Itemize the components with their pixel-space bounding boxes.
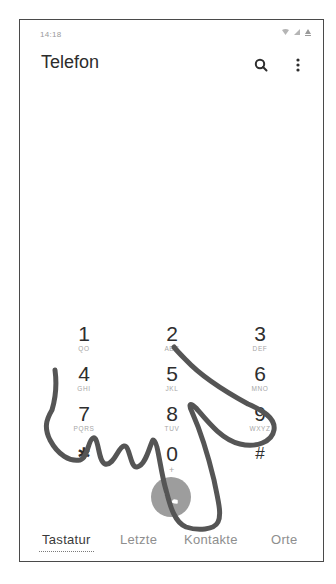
key-8[interactable]: 8TUV bbox=[142, 403, 202, 432]
key-7[interactable]: 7PQRS bbox=[54, 403, 114, 432]
battery-icon bbox=[305, 29, 311, 37]
phone-icon bbox=[162, 488, 180, 506]
key-letters: ABC bbox=[142, 345, 202, 352]
key-letters: GHI bbox=[54, 385, 114, 392]
call-button[interactable] bbox=[151, 477, 191, 517]
key-digit: 4 bbox=[54, 363, 114, 385]
tab-orte[interactable]: Orte bbox=[271, 532, 297, 547]
key-digit: 7 bbox=[54, 403, 114, 425]
search-button[interactable] bbox=[251, 55, 271, 75]
more-options-button[interactable] bbox=[288, 55, 308, 75]
key-star[interactable]: ✱ bbox=[54, 443, 114, 465]
key-digit: 6 bbox=[230, 363, 290, 385]
tab-kontakte[interactable]: Kontakte bbox=[184, 532, 238, 547]
key-digit: 2 bbox=[142, 323, 202, 345]
key-digit: 3 bbox=[230, 323, 290, 345]
key-digit: 0 bbox=[142, 443, 202, 465]
key-letters: QO bbox=[54, 345, 114, 352]
key-1[interactable]: 1QO bbox=[54, 323, 114, 352]
key-digit: 5 bbox=[142, 363, 202, 385]
key-letters: JKL bbox=[142, 385, 202, 392]
key-digit: 8 bbox=[142, 403, 202, 425]
key-letters: MNO bbox=[230, 385, 290, 392]
key-6[interactable]: 6MNO bbox=[230, 363, 290, 392]
bottom-tabs: Tastatur Letzte Kontakte Orte bbox=[20, 532, 325, 558]
page-title: Telefon bbox=[41, 52, 99, 73]
key-9[interactable]: 9WXYZ bbox=[230, 403, 290, 432]
key-digit: 1 bbox=[54, 323, 114, 345]
key-letters: + bbox=[142, 465, 202, 475]
key-digit: ✱ bbox=[54, 443, 114, 465]
tab-letzte[interactable]: Letzte bbox=[120, 532, 157, 547]
tab-tastatur[interactable]: Tastatur bbox=[42, 532, 91, 547]
search-icon bbox=[254, 58, 268, 72]
signal-icon bbox=[294, 29, 300, 37]
phone-screen: 14:18 Telefon 1QO 2ABC 3DEF 4GHI 5JKL 6M… bbox=[19, 19, 324, 562]
more-options-icon bbox=[296, 58, 300, 72]
status-time: 14:18 bbox=[40, 30, 62, 39]
key-0[interactable]: 0+ bbox=[142, 443, 202, 475]
key-letters: PQRS bbox=[54, 425, 114, 432]
key-letters: TUV bbox=[142, 425, 202, 432]
key-2[interactable]: 2ABC bbox=[142, 323, 202, 352]
key-5[interactable]: 5JKL bbox=[142, 363, 202, 392]
wifi-icon bbox=[282, 29, 289, 37]
key-digit: 9 bbox=[230, 403, 290, 425]
key-letters: DEF bbox=[230, 345, 290, 352]
key-digit: # bbox=[230, 443, 290, 465]
key-4[interactable]: 4GHI bbox=[54, 363, 114, 392]
status-icons bbox=[282, 29, 311, 37]
key-hash[interactable]: # bbox=[230, 443, 290, 465]
key-3[interactable]: 3DEF bbox=[230, 323, 290, 352]
key-letters: WXYZ bbox=[230, 425, 290, 432]
